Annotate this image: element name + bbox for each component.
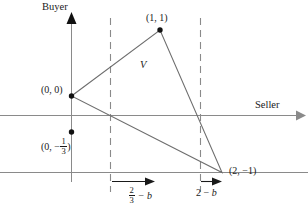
geometry-figure: Buyer Seller (0, 0) (1, 1) (2, −1) (0, −… bbox=[0, 0, 308, 214]
point-label-origin: (0, 0) bbox=[41, 85, 63, 95]
left-offset-denominator: 3 bbox=[129, 196, 135, 205]
left-offset-arrowhead bbox=[145, 178, 155, 186]
buyer-axis-label: Buyer bbox=[42, 2, 68, 13]
left-offset-suffix: − b bbox=[138, 190, 152, 201]
point-dot-apex bbox=[157, 27, 162, 32]
point-label-apex: (1, 1) bbox=[146, 13, 168, 23]
buyer-axis-arrowhead bbox=[67, 12, 77, 24]
region-label-v: V bbox=[140, 60, 146, 71]
point-label-neg-third: (0, −13) bbox=[41, 137, 71, 156]
neg-third-denominator: 3 bbox=[60, 147, 66, 156]
region-triangle bbox=[72, 30, 223, 173]
right-offset-arrowhead bbox=[212, 178, 222, 186]
neg-third-prefix: (0, − bbox=[41, 141, 60, 152]
point-label-right: (2, −1) bbox=[229, 166, 256, 176]
left-offset-fraction: 23 bbox=[129, 186, 135, 205]
seller-axis-arrowhead bbox=[296, 111, 306, 121]
right-offset-lead: 2 − bbox=[196, 187, 209, 198]
neg-third-fraction: 13 bbox=[60, 137, 66, 156]
point-dot-origin bbox=[69, 93, 74, 98]
point-dot-neg-third bbox=[69, 129, 74, 134]
annotation-left-offset: 23 − b bbox=[128, 186, 152, 205]
seller-axis-label: Seller bbox=[255, 100, 280, 111]
annotation-right-offset: 2 − b bbox=[196, 188, 217, 198]
right-offset-variable: b bbox=[212, 187, 217, 198]
neg-third-suffix: ) bbox=[67, 141, 70, 152]
